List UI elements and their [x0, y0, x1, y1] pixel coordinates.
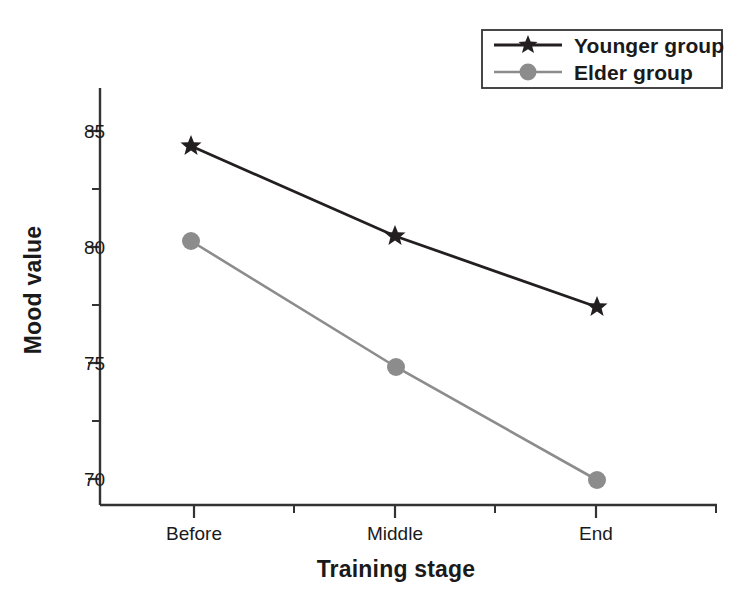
x-axis-title: Training stage [317, 558, 476, 581]
legend-label-elder-group: Elder group [574, 62, 693, 83]
x-tick-label-end: End [579, 524, 613, 543]
series-younger-group [181, 135, 608, 316]
elder-group-point-before [182, 232, 200, 250]
younger-group-point-end [587, 296, 608, 316]
younger-group-line [191, 146, 597, 307]
elder-group-point-end [588, 471, 606, 489]
x-tick-label-before: Before [166, 524, 222, 543]
x-tick-label-middle: Middle [367, 524, 423, 543]
younger-group-point-middle [385, 225, 406, 245]
elder-group-point-middle [387, 358, 405, 376]
x-minor-ticks [294, 505, 716, 513]
legend-label-younger-group: Younger group [574, 35, 724, 56]
chart-canvas [0, 0, 742, 607]
series-elder-group [182, 232, 606, 489]
younger-group-point-before [181, 135, 202, 155]
mood-value-line-chart: 85 80 75 70 Before Middle End Mood value… [0, 0, 742, 607]
y-axis-title: Mood value [22, 226, 45, 355]
x-major-ticks [194, 505, 596, 518]
